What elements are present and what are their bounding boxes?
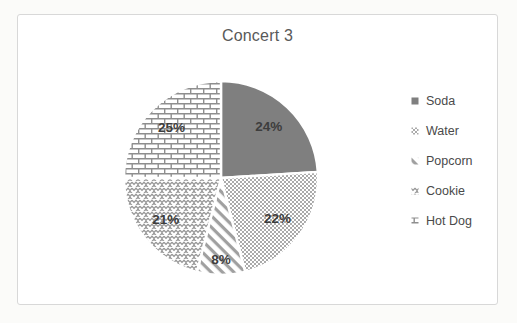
slice-label-cookie: 21%	[152, 212, 179, 227]
legend: SodaWaterPopcornCookieHot Dog	[411, 94, 473, 228]
pie-slices	[124, 81, 318, 275]
legend-label: Soda	[426, 94, 455, 108]
legend-swatch-zigzag-icon	[411, 187, 419, 195]
legend-swatch-solid-icon	[411, 97, 419, 105]
legend-item-hot-dog: Hot Dog	[411, 214, 473, 228]
legend-swatch-bricks-icon	[411, 217, 419, 225]
chart-frame: Concert 3	[17, 14, 498, 305]
slice-label-popcorn: 8%	[211, 252, 231, 267]
legend-label: Popcorn	[426, 154, 473, 168]
pie-chart: 24%22%8%21%25%	[116, 73, 326, 283]
legend-label: Cookie	[426, 184, 465, 198]
slice-label-soda: 24%	[255, 119, 282, 134]
legend-item-water: Water	[411, 124, 473, 138]
legend-swatch-diagonal-stripes-icon	[411, 157, 419, 165]
pie-plot-area: 24%22%8%21%25%	[116, 73, 326, 283]
slice-label-water: 22%	[264, 211, 291, 226]
legend-label: Hot Dog	[426, 214, 472, 228]
legend-label: Water	[426, 124, 459, 138]
chart-title: Concert 3	[18, 27, 497, 45]
slice-label-hot-dog: 25%	[158, 120, 185, 135]
legend-item-soda: Soda	[411, 94, 473, 108]
legend-item-cookie: Cookie	[411, 184, 473, 198]
legend-swatch-dots-icon	[411, 127, 419, 135]
legend-item-popcorn: Popcorn	[411, 154, 473, 168]
